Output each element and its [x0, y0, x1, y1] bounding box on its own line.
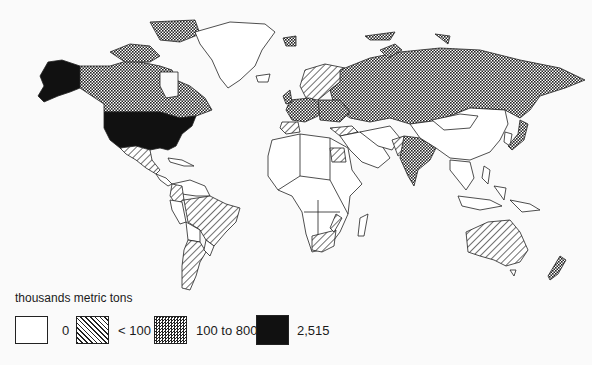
region-spain [280, 122, 300, 134]
legend-label: < 100 [118, 323, 151, 338]
legend-label: 0 [62, 323, 69, 338]
swatch-crosshatch [154, 316, 187, 344]
region-alaska [38, 60, 80, 102]
region-new-zealand [548, 256, 566, 280]
region-argentina [182, 240, 206, 290]
region-arctic-islands [110, 20, 200, 62]
swatch-white [15, 316, 48, 344]
swatch-solid-black [256, 315, 289, 345]
region-egypt [330, 148, 346, 162]
legend-label: 2,515 [297, 323, 330, 338]
region-africa [268, 134, 362, 252]
region-mexico [120, 146, 160, 174]
region-usa [104, 112, 196, 150]
world-map [0, 0, 592, 300]
swatch-diagonal-hatch [76, 316, 109, 344]
legend-title: thousands metric tons [15, 291, 132, 305]
region-canada [80, 60, 212, 118]
region-australia [466, 220, 528, 266]
legend-label: 100 to 800 [196, 323, 257, 338]
